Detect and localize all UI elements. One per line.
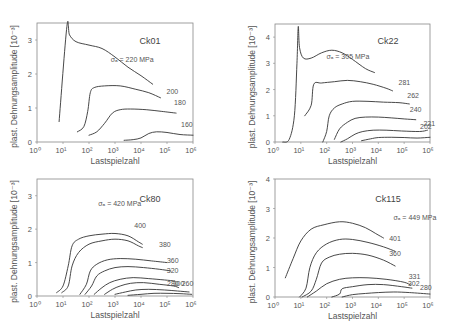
series-line-360 <box>302 253 395 297</box>
x-tick-label: 10⁶ <box>185 146 196 155</box>
x-tick-label: 10² <box>82 146 93 155</box>
series-line-360 <box>85 267 171 295</box>
series-line-202 <box>362 137 430 140</box>
y-tick-label: 0 <box>28 292 32 301</box>
series-line-240 <box>334 117 415 139</box>
series-label: 202 <box>420 123 432 130</box>
chart-ck115: 10⁰10¹10²10³10⁴10⁵10⁶01234Lastspielzahlp… <box>247 175 437 321</box>
x-tick-label: 10⁴ <box>133 146 145 155</box>
x-tick-label: 10⁰ <box>29 146 40 155</box>
series-label: 380 <box>159 241 171 248</box>
x-tick-label: 10¹ <box>293 301 304 310</box>
series-line-281 <box>305 80 393 115</box>
series-label: 401 <box>389 235 401 242</box>
series-label: σₐ = 305 MPa <box>326 53 369 60</box>
x-tick-label: 10⁰ <box>29 300 40 309</box>
series-label: 260 <box>182 280 194 287</box>
x-tick-label: 10² <box>319 301 330 310</box>
x-tick-label: 10⁶ <box>422 146 433 155</box>
x-tick-label: 10⁶ <box>422 301 433 310</box>
series-label: 200 <box>167 88 179 95</box>
y-tick-label: 3 <box>266 205 270 214</box>
y-tick-label: 2 <box>28 70 32 79</box>
y-tick-label: 1 <box>266 112 270 121</box>
series-line-260 <box>128 293 192 295</box>
chart-title: Ck80 <box>139 194 160 204</box>
x-tick-label: 10¹ <box>56 300 67 309</box>
x-axis-label: Lastspielzahl <box>90 310 139 320</box>
x-axis-label: Lastspielzahl <box>328 156 377 166</box>
x-tick-label: 10⁵ <box>159 300 170 309</box>
x-tick-label: 10⁰ <box>267 301 278 310</box>
y-tick-label: 3 <box>28 192 32 201</box>
x-axis-label: Lastspielzahl <box>328 311 377 321</box>
series-line--a-305-mpa <box>283 26 375 142</box>
series-line--a-449-mpa <box>285 222 383 278</box>
series-label: 280 <box>420 284 432 291</box>
series-label: 262 <box>407 92 419 99</box>
y-axis-label: plast. Dehnungsamplitude [10⁻³] <box>9 25 19 148</box>
series-label: 360 <box>167 257 179 264</box>
series-line-401 <box>300 239 396 297</box>
y-tick-label: 2 <box>28 225 32 234</box>
series-label: σₐ = 449 MPa <box>394 214 437 221</box>
y-tick-label: 3 <box>266 59 270 68</box>
series-label: 331 <box>409 273 421 280</box>
x-tick-label: 10² <box>82 300 93 309</box>
y-axis-label: plast. Dehnungsamplitude [10⁻³] <box>9 180 19 303</box>
series-label: 360 <box>389 250 401 257</box>
series-line-200 <box>77 86 160 132</box>
x-tick-label: 10³ <box>108 300 119 309</box>
x-tick-label: 10⁴ <box>133 300 145 309</box>
plot-frame <box>37 23 193 142</box>
series-line-320 <box>94 278 175 295</box>
series-label: 400 <box>134 222 146 229</box>
plot-frame <box>275 179 430 297</box>
series-line-280 <box>342 292 430 297</box>
plot-frame <box>37 179 193 296</box>
x-tick-label: 10² <box>319 146 330 155</box>
x-tick-label: 10⁵ <box>159 146 170 155</box>
series-label: σₐ = 420 MPa <box>98 200 141 207</box>
y-tick-label: 0 <box>266 293 270 302</box>
series-line-180 <box>89 109 176 135</box>
chart-title: Ck115 <box>375 194 400 204</box>
chart-ck80: 10⁰10¹10²10³10⁴10⁵10⁶0123Lastspielzahlpl… <box>9 179 197 320</box>
series-label: σₐ = 220 MPa <box>111 56 154 63</box>
series-label: 280 <box>167 280 179 287</box>
series-label: 302 <box>408 280 420 287</box>
chart-ck01: 10⁰10¹10²10³10⁴10⁵10⁶0123Lastspielzahlpl… <box>9 21 197 166</box>
series-line-400 <box>62 239 143 292</box>
series-line-302 <box>332 284 412 297</box>
y-tick-label: 1 <box>28 104 32 113</box>
y-tick-label: 3 <box>28 36 32 45</box>
y-tick-label: 0 <box>28 138 32 147</box>
x-tick-label: 10⁰ <box>267 146 278 155</box>
y-tick-label: 4 <box>266 33 270 42</box>
y-tick-label: 2 <box>266 234 270 243</box>
series-label: 160 <box>181 121 193 128</box>
series-line-380 <box>80 259 167 295</box>
series-line-221 <box>341 130 428 142</box>
x-tick-label: 10¹ <box>293 146 304 155</box>
y-tick-label: 2 <box>266 86 270 95</box>
x-tick-label: 10⁶ <box>185 300 196 309</box>
y-tick-label: 4 <box>266 175 270 184</box>
y-tick-label: 0 <box>266 138 270 147</box>
x-tick-label: 10³ <box>345 301 356 310</box>
series-label: 240 <box>410 106 422 113</box>
x-tick-label: 10¹ <box>56 146 67 155</box>
y-axis-label: plast. Dehnungsamplitude [10⁻³] <box>247 26 257 149</box>
series-label: 281 <box>399 79 411 86</box>
x-tick-label: 10⁴ <box>371 301 383 310</box>
x-tick-label: 10³ <box>108 146 119 155</box>
y-tick-label: 1 <box>266 264 270 273</box>
x-tick-label: 10⁵ <box>396 146 407 155</box>
x-tick-label: 10⁴ <box>371 146 383 155</box>
x-axis-label: Lastspielzahl <box>90 156 139 166</box>
series-line-160 <box>124 132 193 141</box>
chart-title: Ck01 <box>139 36 160 46</box>
y-axis-label: plast. Dehnungsamplitude [10⁻³] <box>247 181 257 304</box>
chart-ck22: 10⁰10¹10²10³10⁴10⁵10⁶01234Lastspielzahlp… <box>247 24 435 166</box>
x-tick-label: 10⁵ <box>396 301 407 310</box>
